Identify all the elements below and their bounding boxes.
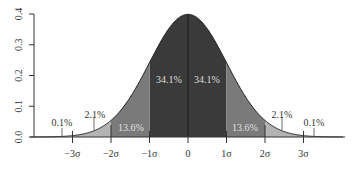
- y-tick-label: 0.3: [13, 39, 24, 52]
- pct-label: 0.1%: [304, 117, 325, 128]
- x-tick-label: 3σ: [298, 148, 309, 159]
- pct-label: 2.1%: [272, 109, 293, 120]
- x-tick-label: −3σ: [64, 148, 81, 159]
- pct-label: 2.1%: [85, 109, 106, 120]
- pct-label: 34.1%: [156, 74, 182, 85]
- normal-distribution-chart: 0.0 0.1 0.2 0.3 0.4 −3σ −2σ −1σ 0 1σ 2σ …: [0, 0, 358, 170]
- x-tick-label: −1σ: [141, 148, 158, 159]
- pct-label: 13.6%: [232, 122, 258, 133]
- pct-label: 34.1%: [194, 74, 220, 85]
- y-tick-label: 0.0: [13, 131, 24, 144]
- y-tick-label: 0.4: [13, 8, 24, 21]
- pct-label: 13.6%: [118, 122, 144, 133]
- x-tick-label: 1σ: [221, 148, 232, 159]
- x-tick-label: 2σ: [260, 148, 271, 159]
- x-tick-label: −2σ: [103, 148, 120, 159]
- x-tick-label: 0: [186, 148, 191, 159]
- y-axis: 0.0 0.1 0.2 0.3 0.4: [13, 8, 34, 144]
- y-tick-label: 0.2: [13, 69, 24, 82]
- y-tick-label: 0.1: [13, 100, 24, 113]
- pct-label: 0.1%: [52, 117, 73, 128]
